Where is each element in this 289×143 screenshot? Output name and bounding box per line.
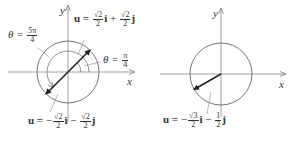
- vector-u-right: [194, 74, 221, 90]
- vector-u-lower: [46, 72, 68, 94]
- label-angle-pi-4: θ = π4: [103, 52, 129, 69]
- leader-upper: [78, 40, 84, 55]
- right-figure: [160, 9, 285, 117]
- leader-lower: [50, 94, 58, 112]
- left-x-axis-label: x: [127, 76, 132, 87]
- angle-arc-pi-4: [77, 63, 81, 72]
- label-vector-lower: u = −√22i − √22j: [28, 113, 95, 130]
- label-angle-5pi-4: θ = 5π4: [8, 27, 38, 44]
- right-x-axis-label: x: [279, 79, 284, 90]
- left-y-axis-label: y: [60, 5, 65, 16]
- label-vector-right: u = −√32i − 12j: [163, 112, 226, 129]
- label-vector-upper: u = √22i + √22j: [74, 11, 135, 28]
- right-y-axis-label: y: [213, 8, 218, 19]
